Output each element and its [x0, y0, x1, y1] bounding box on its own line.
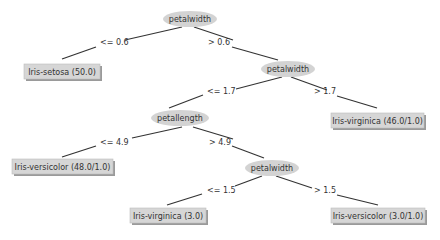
edge-label: <= 0.6	[100, 38, 129, 47]
split-node-petalwidth-2: petalwidth	[261, 61, 315, 77]
leaf-node-versicolor-3: Iris-versicolor (3.0/1.0)	[331, 208, 427, 225]
node-label: petalwidth	[251, 164, 293, 173]
edge-label: > 0.6	[208, 38, 230, 47]
edge-label: > 1.5	[314, 186, 336, 195]
edge-root-left: <= 0.6	[62, 27, 182, 59]
split-node-petallength: petallength	[151, 110, 209, 126]
leaf-label: Iris-virginica (3.0)	[133, 212, 203, 221]
leaf-label: Iris-virginica (46.0/1.0)	[332, 117, 423, 126]
edge-label: > 1.7	[314, 87, 336, 96]
leaf-label: Iris-versicolor (48.0/1.0)	[15, 163, 111, 172]
leaf-label: Iris-versicolor (3.0/1.0)	[333, 212, 424, 221]
decision-tree-diagram: <= 0.6 > 0.6 <= 1.7 > 1.7 <= 4.9 > 4.9 <…	[0, 0, 440, 240]
edge-root-right: > 0.6	[194, 27, 278, 60]
node-label: petalwidth	[169, 15, 211, 24]
edge-pl-left: <= 4.9	[62, 127, 182, 157]
edge-pw2-left: <= 1.7	[169, 77, 282, 108]
leaf-node-virginica-3: Iris-virginica (3.0)	[130, 208, 208, 225]
split-node-root: petalwidth	[163, 11, 217, 27]
edge-pw3-left: <= 1.5	[167, 176, 262, 205]
edge-pw2-right: > 1.7	[291, 77, 377, 108]
node-label: petalwidth	[267, 65, 309, 74]
edge-pl-right: > 4.9	[193, 127, 264, 158]
edge-label: <= 1.5	[207, 186, 236, 195]
node-label: petallength	[157, 114, 203, 123]
leaf-node-setosa: Iris-setosa (50.0)	[24, 64, 102, 81]
leaf-label: Iris-setosa (50.0)	[28, 68, 96, 77]
leaf-node-virginica-46: Iris-virginica (46.0/1.0)	[331, 113, 426, 130]
edge-label: > 4.9	[209, 138, 231, 147]
leaf-node-versicolor-48: Iris-versicolor (48.0/1.0)	[12, 159, 115, 176]
edge-label: <= 1.7	[207, 87, 236, 96]
edge-pw3-right: > 1.5	[276, 176, 378, 205]
split-node-petalwidth-3: petalwidth	[245, 160, 299, 176]
edge-label: <= 4.9	[100, 138, 129, 147]
